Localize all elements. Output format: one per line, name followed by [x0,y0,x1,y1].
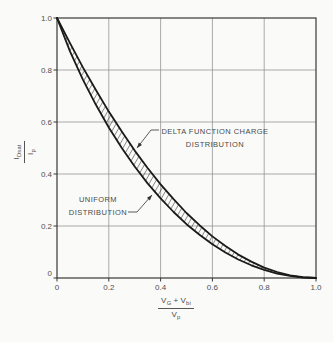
annotation-uniform-line2: DISTRIBUTION [62,206,134,219]
x-tick-label: 0.8 [259,283,271,292]
x-axis-label-denominator: Vp [158,309,194,321]
y-tick-label: 1.0 [41,14,53,23]
jfet-saturation-current-figure: 00.20.40.60.81.000.20.40.60.81.0 DELTA F… [0,0,333,342]
y-tick-label: 0.8 [41,66,53,75]
x-axis-label: VG+Vbi Vp [140,296,212,320]
x-tick-label: 0 [55,283,60,292]
y-tick-label: 0.6 [41,118,53,127]
annotation-delta-function: DELTA FUNCTION CHARGE DISTRIBUTION [156,125,274,151]
y-axis-label-denominator: Ip [25,141,37,162]
annotation-uniform: UNIFORM DISTRIBUTION [62,193,134,219]
x-axis-label-numerator: VG+Vbi [158,296,194,309]
y-axis-label: IDsat Ip [1,129,47,175]
annotation-delta-line2: DISTRIBUTION [156,138,274,151]
tick-labels: 00.20.40.60.81.000.20.40.60.81.0 [41,14,322,292]
x-tick-label: 0.2 [103,283,115,292]
annotation-delta-line1: DELTA FUNCTION CHARGE [156,125,274,138]
chart-plot-area: 00.20.40.60.81.000.20.40.60.81.0 [0,0,333,342]
x-tick-label: 1.0 [310,283,322,292]
x-tick-label: 0.6 [207,283,219,292]
annotation-uniform-line1: UNIFORM [62,193,134,206]
x-tick-label: 0.4 [155,283,167,292]
y-axis-label-numerator: IDsat [12,141,25,162]
y-tick-label: 0.2 [41,222,53,231]
y-tick-label: 0 [48,269,53,278]
